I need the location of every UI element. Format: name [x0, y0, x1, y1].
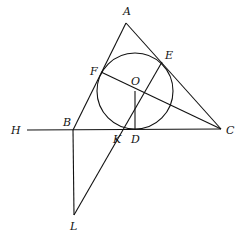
- label-k: K: [112, 133, 122, 146]
- label-f: F: [89, 65, 98, 78]
- segment-bl: [73, 130, 74, 215]
- segment-fc: [101, 72, 221, 129]
- geometry-diagram: A B C D E F O K H L: [0, 0, 246, 241]
- segment-ac: [126, 23, 221, 129]
- segment-ab: [73, 23, 126, 130]
- label-b: B: [62, 116, 71, 129]
- label-h: H: [10, 124, 21, 137]
- label-d: D: [130, 133, 140, 146]
- label-c: C: [226, 124, 235, 137]
- label-l: L: [69, 220, 77, 233]
- label-o: O: [131, 75, 140, 88]
- label-e: E: [164, 49, 173, 62]
- label-a: A: [122, 5, 131, 18]
